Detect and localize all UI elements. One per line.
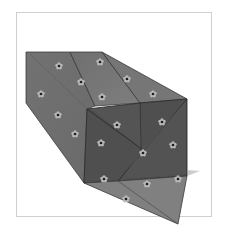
box-bottom-flap — [84, 176, 187, 224]
folded-box-illustration — [0, 0, 226, 235]
